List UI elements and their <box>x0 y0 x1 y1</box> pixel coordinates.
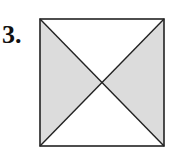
diagram-canvas: 3. <box>0 0 176 165</box>
square-diagonals-figure <box>0 0 176 165</box>
